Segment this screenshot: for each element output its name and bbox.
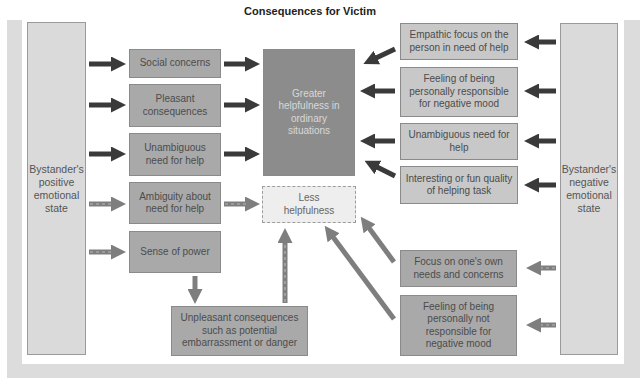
- solid-arrow-icon: [376, 49, 395, 58]
- solid-arrow-icon: [377, 167, 395, 176]
- arrows-layer: [0, 0, 644, 379]
- dashed-arrow-icon: [369, 228, 394, 262]
